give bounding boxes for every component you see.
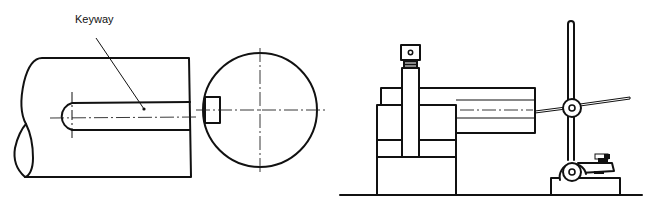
keyway-slot (62, 102, 190, 130)
stand-base (551, 178, 620, 195)
block-upper-ledge (381, 88, 402, 105)
lower-pivot-hub (563, 163, 581, 181)
clamp-thread (403, 60, 418, 68)
bracket-nut (594, 171, 604, 174)
indicator-arm-left (535, 107, 566, 113)
measuring-setup (340, 21, 642, 195)
keyway-callout: Keyway (75, 13, 144, 109)
swivel-clamp-hub (563, 99, 581, 117)
shaft-break-lobe (25, 124, 33, 177)
keyway-label: Keyway (75, 13, 114, 25)
workpiece-shaft (402, 88, 535, 133)
indicator-arm-right (580, 97, 630, 106)
keyway-leader-line (96, 38, 144, 109)
diagram-canvas: Keyway (0, 0, 654, 210)
clamp-plunger (402, 68, 419, 157)
technical-drawing: Keyway (0, 0, 654, 210)
shaft-side-view (14, 58, 196, 177)
shaft-end-view (196, 48, 325, 175)
block-base (377, 157, 456, 195)
stand-post (568, 21, 574, 160)
clamp-screw-head (401, 45, 420, 60)
